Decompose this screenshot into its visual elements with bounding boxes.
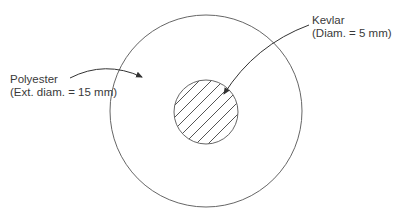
- inner-kevlar-hatching: [150, 50, 320, 183]
- polyester-label: Polyester (Ext. diam. = 15 mm): [10, 73, 117, 99]
- diagram-canvas: Polyester (Ext. diam. = 15 mm) Kevlar (D…: [0, 0, 397, 215]
- polyester-name: Polyester: [10, 73, 117, 86]
- polyester-spec: (Ext. diam. = 15 mm): [10, 86, 117, 99]
- kevlar-name: Kevlar: [312, 14, 392, 27]
- outer-polyester-circle: [110, 15, 302, 207]
- kevlar-leader-arrow: [224, 25, 309, 94]
- kevlar-label: Kevlar (Diam. = 5 mm): [312, 14, 392, 40]
- kevlar-spec: (Diam. = 5 mm): [312, 27, 392, 40]
